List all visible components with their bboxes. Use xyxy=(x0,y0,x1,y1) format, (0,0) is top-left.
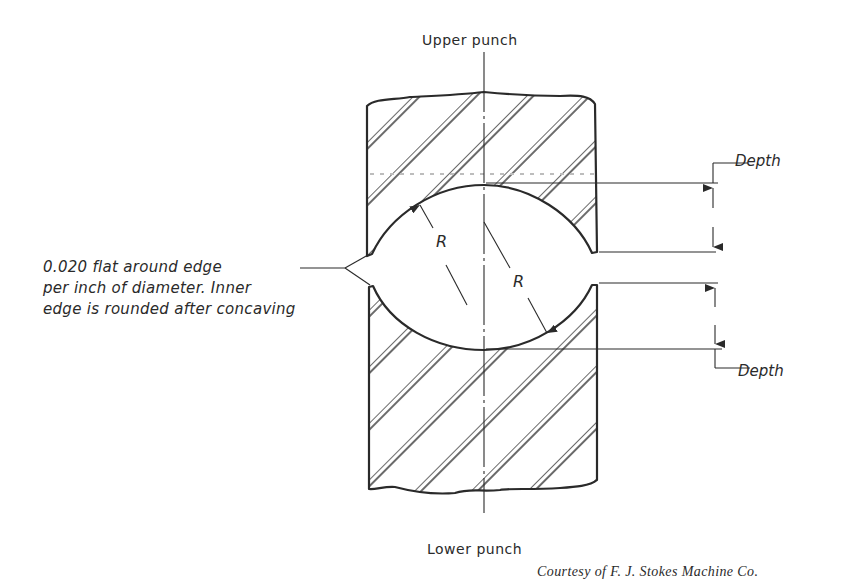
lower-punch-label: Lower punch xyxy=(427,541,522,557)
lower-punch xyxy=(369,285,597,494)
upper-punch-label: Upper punch xyxy=(422,32,518,48)
depth-label-lower: Depth xyxy=(738,362,784,380)
edge-note-line-2: per inch of diameter. Inner xyxy=(43,278,296,299)
credit-caption: Courtesy of F. J. Stokes Machine Co. xyxy=(537,564,758,580)
radius-upper-leader xyxy=(420,205,467,305)
radius-label-upper: R xyxy=(436,232,447,251)
edge-note-line-3: edge is rounded after concaving xyxy=(43,299,296,320)
note-leader xyxy=(300,255,370,285)
depth-label-upper: Depth xyxy=(735,152,781,170)
edge-note: 0.020 flat around edge per inch of diame… xyxy=(43,257,296,320)
radius-label-lower: R xyxy=(513,272,524,291)
edge-note-line-1: 0.020 flat around edge xyxy=(43,257,296,278)
